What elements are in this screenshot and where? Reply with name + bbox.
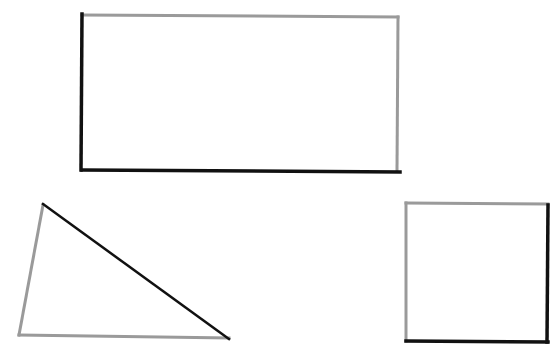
rectangle-left-edge [81,14,82,170]
rectangle-right-edge [397,17,398,171]
square-right-edge [547,205,548,342]
rectangle-bottom-edge [82,170,400,172]
rectangle-top-edge [82,15,398,17]
square-bottom-edge [406,341,548,342]
shapes-canvas [0,0,555,351]
square-top-edge [406,203,548,204]
